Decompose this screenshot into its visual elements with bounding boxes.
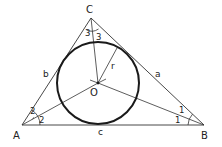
angle-label-B-upper: 1 [179, 105, 184, 115]
incenter-point [97, 82, 100, 85]
angle-label-A-upper: 2 [30, 106, 35, 116]
bisector-from-B [98, 83, 204, 125]
vertex-label-A: A [13, 130, 20, 141]
side-label-b: b [43, 69, 49, 79]
angle-label-B-lower: 1 [175, 115, 180, 125]
angle-bisectors [22, 18, 204, 125]
radius-label: r [111, 61, 115, 71]
angle-label-C-left: 3 [85, 28, 90, 38]
side-label-a: a [155, 69, 161, 79]
vertex-label-C: C [86, 4, 93, 15]
bisector-from-A [22, 83, 98, 125]
side-a-line [91, 18, 204, 125]
incenter-label: O [90, 87, 98, 98]
bisector-from-C [91, 18, 98, 83]
vertex-label-B: B [201, 130, 208, 141]
incircle-diagram: A B C O r b a c 2 2 1 1 3 3 [0, 0, 222, 147]
side-label-c: c [98, 127, 103, 137]
angle-label-A-lower: 2 [39, 115, 44, 125]
angle-label-C-right: 3 [96, 32, 101, 42]
triangle [22, 18, 204, 125]
